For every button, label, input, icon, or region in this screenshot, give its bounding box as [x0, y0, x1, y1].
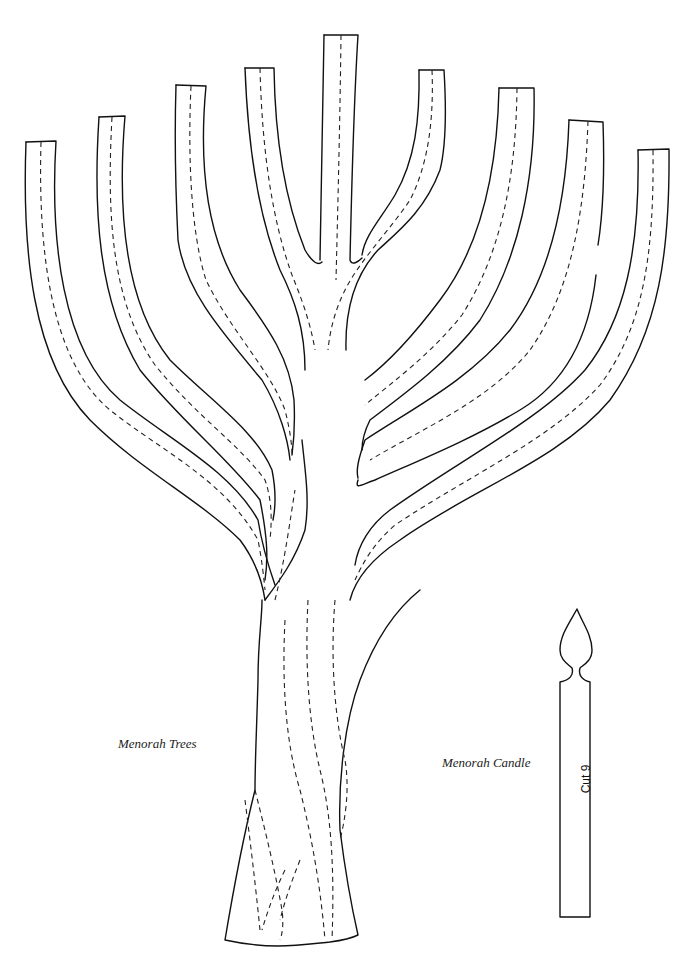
tree-branch-5 — [320, 35, 362, 280]
tree-branch-2 — [97, 116, 275, 580]
candle-caption: Menorah Candle — [442, 755, 530, 771]
trees-caption: Menorah Trees — [118, 736, 197, 752]
pattern-sheet — [0, 0, 686, 964]
menorah-tree — [25, 35, 669, 946]
candle-cut-label: Cut 9 — [576, 759, 596, 799]
tree-branch-4 — [245, 68, 322, 370]
tree-branch-1 — [25, 141, 275, 600]
tree-branch-8 — [357, 120, 603, 486]
tree-trunk — [225, 440, 420, 946]
tree-branch-3 — [175, 85, 294, 460]
tree-branch-7 — [362, 88, 534, 450]
tree-branch-6 — [328, 70, 445, 350]
